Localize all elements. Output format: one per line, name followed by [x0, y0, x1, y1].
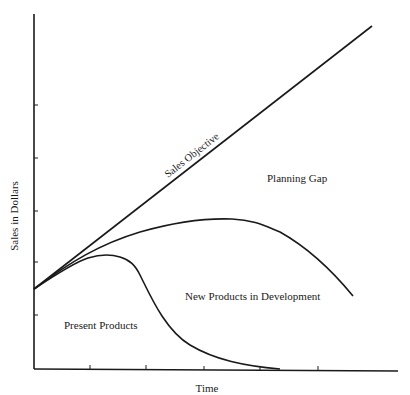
x-axis — [34, 369, 398, 371]
sales-objective-label: Sales Objective — [162, 130, 221, 179]
y-axis-label: Sales in Dollars — [8, 181, 20, 251]
chart: Sales Objective Planning Gap New Product… — [0, 0, 410, 395]
planning-gap-label: Planning Gap — [267, 172, 328, 184]
sales-objective-line — [34, 26, 372, 289]
x-axis-label: Time — [196, 382, 219, 394]
present-products-label: Present Products — [64, 319, 138, 331]
new-products-label: New Products in Development — [185, 290, 320, 302]
present-products-curve — [34, 255, 280, 369]
new-products-curve — [34, 219, 353, 296]
